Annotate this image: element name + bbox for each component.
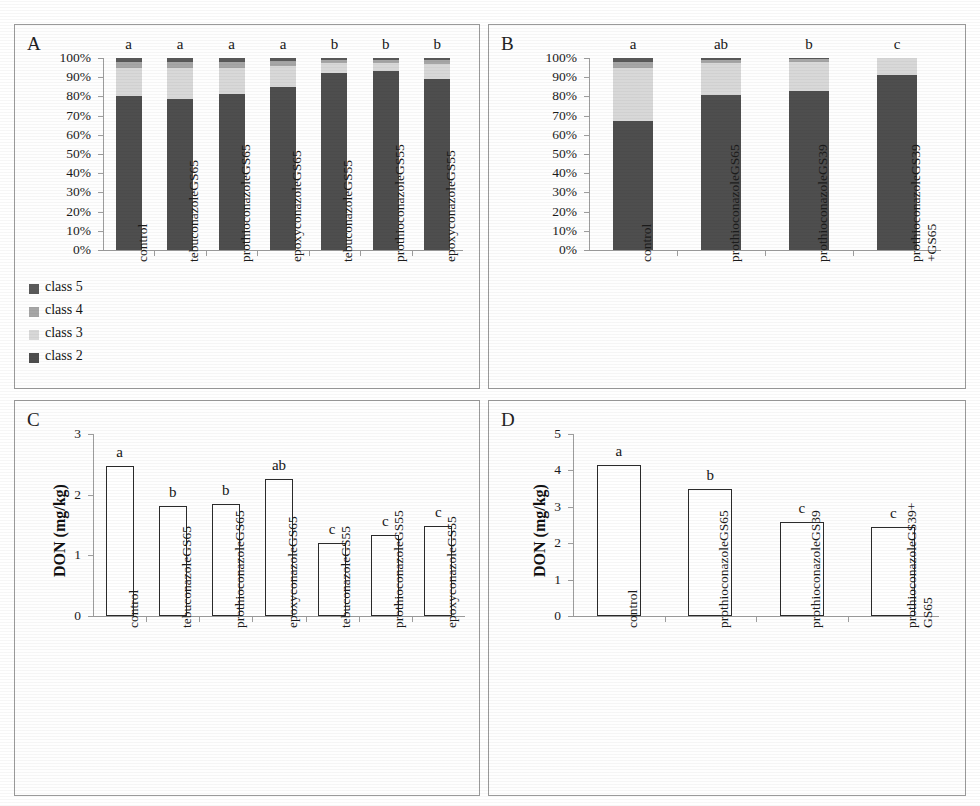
panel-b-letter: B bbox=[501, 33, 514, 55]
panel-d-plot: 543210DON (mg/kg)acontrolbprothioconazol… bbox=[573, 434, 939, 616]
significance-label: b bbox=[312, 37, 356, 52]
y-tick-mark bbox=[584, 154, 589, 155]
x-tick-mark bbox=[359, 617, 360, 622]
significance-label: b bbox=[204, 483, 248, 498]
panel-c-plot: 3210DON (mg/kg)acontrolbtebuconazoleGS65… bbox=[93, 434, 465, 616]
x-axis-label: control bbox=[126, 590, 142, 628]
y-axis bbox=[103, 58, 104, 250]
y-tick-mark bbox=[98, 231, 103, 232]
x-axis-label: epoxyconazoleGS65 bbox=[285, 516, 301, 628]
y-tick-mark bbox=[88, 495, 93, 496]
bar-segment-class-5 bbox=[424, 58, 450, 60]
y-tick-label: 10% bbox=[535, 224, 577, 238]
x-axis-label: control bbox=[639, 224, 655, 262]
legend-swatch-icon bbox=[29, 353, 39, 363]
y-tick-mark bbox=[88, 616, 93, 617]
y-tick-label: 0 bbox=[547, 609, 561, 623]
y-tick-label: 4 bbox=[547, 463, 561, 477]
bar-segment-class-3 bbox=[373, 63, 399, 72]
y-tick-mark bbox=[88, 555, 93, 556]
y-tick-label: 3 bbox=[67, 427, 81, 441]
x-axis-label: tebuconazoleGS55 bbox=[340, 160, 356, 262]
panel-c: C 3210DON (mg/kg)acontrolbtebuconazoleGS… bbox=[14, 400, 480, 796]
y-tick-label: 60% bbox=[49, 128, 91, 142]
y-axis bbox=[589, 58, 590, 250]
x-tick-mark bbox=[848, 617, 849, 622]
panel-b-plot: 100%90%80%70%60%50%40%30%20%10%0%acontro… bbox=[589, 58, 941, 250]
y-tick-label: 60% bbox=[535, 128, 577, 142]
panel-c-letter: C bbox=[27, 409, 40, 431]
x-axis-label: prothioconazoleGS65 bbox=[232, 510, 248, 628]
x-tick-mark bbox=[154, 251, 155, 256]
x-axis-label: control bbox=[625, 590, 641, 628]
y-axis-title: DON (mg/kg) bbox=[51, 484, 69, 577]
legend-swatch-icon bbox=[29, 307, 39, 317]
y-tick-mark bbox=[568, 580, 573, 581]
bar-segment-class-4 bbox=[321, 60, 347, 63]
x-tick-mark bbox=[146, 617, 147, 622]
legend-label: class 5 bbox=[45, 279, 83, 295]
y-tick-mark bbox=[584, 77, 589, 78]
significance-label: ab bbox=[699, 37, 743, 52]
x-axis-label: prothioconazoleGS39 +GS65 bbox=[908, 144, 939, 262]
x-tick-mark bbox=[853, 251, 854, 256]
x-tick-mark bbox=[252, 617, 253, 622]
y-axis-title: DON (mg/kg) bbox=[531, 484, 549, 577]
y-tick-mark bbox=[98, 96, 103, 97]
legend-swatch-icon bbox=[29, 284, 39, 294]
x-tick-mark bbox=[206, 251, 207, 256]
x-axis bbox=[93, 616, 465, 617]
y-tick-label: 20% bbox=[535, 205, 577, 219]
y-tick-label: 80% bbox=[49, 89, 91, 103]
significance-label: b bbox=[415, 37, 459, 52]
x-axis-label: control bbox=[135, 224, 151, 262]
x-axis-label: prothioconazoleGS65 bbox=[727, 144, 743, 262]
x-axis-label: prothioconazoleGS55 bbox=[391, 510, 407, 628]
bar-segment-class-5 bbox=[167, 58, 193, 62]
y-tick-mark bbox=[568, 434, 573, 435]
significance-label: ab bbox=[257, 458, 301, 473]
bar-segment-class-3 bbox=[424, 64, 450, 79]
x-tick-mark bbox=[756, 617, 757, 622]
y-tick-label: 100% bbox=[535, 51, 577, 65]
y-tick-label: 50% bbox=[49, 147, 91, 161]
y-tick-label: 80% bbox=[535, 89, 577, 103]
panel-a-plot: 100%90%80%70%60%50%40%30%20%10%0%acontro… bbox=[103, 58, 463, 250]
y-tick-label: 10% bbox=[49, 224, 91, 238]
panel-a-letter: A bbox=[27, 33, 41, 55]
bar-segment-class-3 bbox=[270, 66, 296, 87]
bar-segment-class-5 bbox=[789, 58, 829, 59]
x-axis-label: prothioconazoleGS65 bbox=[238, 144, 254, 262]
y-tick-label: 50% bbox=[535, 147, 577, 161]
y-tick-mark bbox=[584, 231, 589, 232]
bar-segment-class-4 bbox=[789, 59, 829, 62]
y-tick-label: 100% bbox=[49, 51, 91, 65]
y-tick-mark bbox=[98, 77, 103, 78]
y-tick-label: 30% bbox=[49, 185, 91, 199]
significance-label: a bbox=[597, 444, 641, 459]
y-axis bbox=[93, 434, 94, 616]
legend-label: class 4 bbox=[45, 302, 83, 318]
y-tick-label: 30% bbox=[535, 185, 577, 199]
x-tick-mark bbox=[199, 617, 200, 622]
significance-label: b bbox=[364, 37, 408, 52]
significance-label: a bbox=[261, 37, 305, 52]
y-tick-mark bbox=[584, 212, 589, 213]
x-axis-label: prothioconazoleGS55 bbox=[392, 144, 408, 262]
y-tick-mark bbox=[98, 212, 103, 213]
x-axis-label: epoxyconazoleGS55 bbox=[444, 516, 460, 628]
bar-segment-class-5 bbox=[701, 58, 741, 60]
bar-segment-class-5 bbox=[116, 58, 142, 62]
y-tick-mark bbox=[98, 135, 103, 136]
x-tick-mark bbox=[257, 251, 258, 256]
stacked-bar bbox=[613, 58, 653, 250]
y-tick-mark bbox=[98, 173, 103, 174]
significance-label: b bbox=[787, 37, 831, 52]
x-axis-label: prothioconazoleGS39+ GS65 bbox=[904, 503, 935, 628]
x-axis-label: tebuconazoleGS65 bbox=[186, 160, 202, 262]
x-axis-label: prothioconazoleGS39 bbox=[815, 144, 831, 262]
bar-segment-class-4 bbox=[270, 61, 296, 66]
bar-segment-class-3 bbox=[877, 58, 917, 75]
x-tick-mark bbox=[360, 251, 361, 256]
y-tick-mark bbox=[584, 250, 589, 251]
